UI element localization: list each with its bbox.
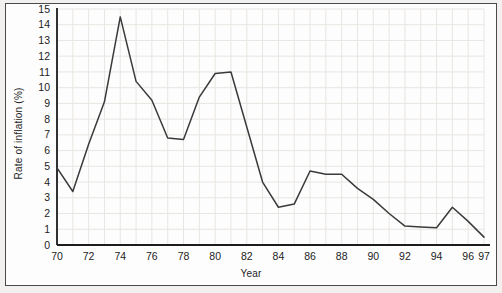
svg-text:88: 88	[336, 250, 348, 262]
gridlines	[57, 9, 484, 245]
svg-text:78: 78	[178, 250, 190, 262]
svg-text:92: 92	[399, 250, 411, 262]
svg-text:2: 2	[44, 207, 50, 219]
x-axis-title: Year	[0, 268, 502, 279]
svg-text:7: 7	[44, 128, 50, 140]
inflation-line-chart: 707274767880828486889092949697 012345678…	[0, 0, 502, 293]
svg-text:96: 96	[462, 250, 474, 262]
svg-text:94: 94	[431, 250, 443, 262]
svg-text:3: 3	[44, 191, 50, 203]
svg-text:13: 13	[38, 34, 50, 46]
svg-text:84: 84	[273, 250, 285, 262]
svg-text:80: 80	[209, 250, 221, 262]
svg-text:8: 8	[44, 113, 50, 125]
svg-text:74: 74	[114, 250, 126, 262]
svg-text:1: 1	[44, 223, 50, 235]
svg-text:5: 5	[44, 160, 50, 172]
svg-text:9: 9	[44, 97, 50, 109]
svg-text:10: 10	[38, 81, 50, 93]
svg-text:4: 4	[44, 176, 50, 188]
axis-lines	[57, 8, 490, 245]
svg-text:15: 15	[38, 3, 50, 15]
svg-text:90: 90	[367, 250, 379, 262]
data-line-series	[57, 17, 484, 237]
y-axis-title: Rate of inflation (%)	[13, 74, 24, 194]
svg-text:0: 0	[44, 239, 50, 251]
svg-text:86: 86	[304, 250, 316, 262]
y-axis-tick-labels: 0123456789101112131415	[38, 3, 50, 251]
svg-text:97: 97	[478, 250, 490, 262]
svg-text:72: 72	[83, 250, 95, 262]
svg-text:6: 6	[44, 144, 50, 156]
svg-text:12: 12	[38, 50, 50, 62]
svg-text:70: 70	[51, 250, 63, 262]
x-axis-tick-labels: 707274767880828486889092949697	[51, 250, 490, 262]
svg-text:11: 11	[39, 66, 50, 78]
svg-text:14: 14	[38, 18, 50, 30]
svg-text:82: 82	[241, 250, 253, 262]
svg-text:76: 76	[146, 250, 158, 262]
chart-plot-area: 707274767880828486889092949697 012345678…	[0, 0, 502, 293]
